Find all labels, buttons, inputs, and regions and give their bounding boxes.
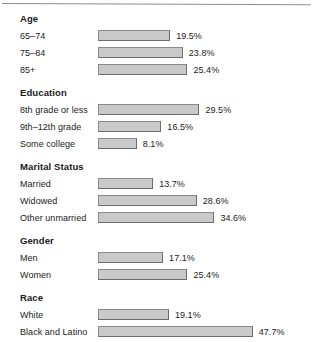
bar bbox=[98, 104, 199, 115]
bar-value-label: 47.7% bbox=[259, 326, 285, 339]
bar bbox=[98, 64, 187, 75]
bar-value-label: 29.5% bbox=[205, 104, 231, 117]
bar-category-label: 8th grade or less bbox=[20, 104, 88, 117]
bar bbox=[98, 309, 169, 320]
bar-row: 9th–12th grade16.5% bbox=[0, 119, 313, 136]
bar-track bbox=[98, 121, 161, 132]
bar-group-title: Gender bbox=[0, 235, 313, 247]
bar-row: Married13.7% bbox=[0, 176, 313, 193]
bar-category-label: Widowed bbox=[20, 195, 57, 208]
bar-group-title: Education bbox=[0, 87, 313, 99]
bar-category-label: Other unmarried bbox=[20, 212, 86, 225]
bar bbox=[98, 326, 253, 337]
bar-group: Marital StatusMarried13.7%Widowed28.6%Ot… bbox=[0, 161, 313, 227]
bar-track bbox=[98, 309, 169, 320]
bar-row: Other unmarried34.6% bbox=[0, 210, 313, 227]
bar-group: Age65–7419.5%75–8423.8%85+25.4% bbox=[0, 13, 313, 79]
bar-row: Men17.1% bbox=[0, 250, 313, 267]
bar bbox=[98, 195, 197, 206]
bar-category-label: 65–74 bbox=[20, 30, 45, 43]
bar bbox=[98, 212, 214, 223]
bar-track bbox=[98, 30, 170, 41]
bar-row: Women25.4% bbox=[0, 267, 313, 284]
bar-category-label: Black and Latino bbox=[20, 326, 87, 339]
bar-row: White19.1% bbox=[0, 307, 313, 324]
bar-track bbox=[98, 195, 197, 206]
bar-track bbox=[98, 212, 214, 223]
bar-group-title: Race bbox=[0, 292, 313, 304]
bar-group: GenderMen17.1%Women25.4% bbox=[0, 235, 313, 284]
bar bbox=[98, 30, 170, 41]
bar-row: Some college8.1% bbox=[0, 136, 313, 153]
bar-value-label: 19.5% bbox=[176, 30, 202, 43]
bar-row: 85+25.4% bbox=[0, 62, 313, 79]
bar-row: 65–7419.5% bbox=[0, 28, 313, 45]
bar-row: 8th grade or less29.5% bbox=[0, 102, 313, 119]
bar-row: 75–8423.8% bbox=[0, 45, 313, 62]
bar-row: Black and Latino47.7% bbox=[0, 324, 313, 341]
bar-track bbox=[98, 178, 153, 189]
bar-track bbox=[98, 104, 199, 115]
bar-row: Widowed28.6% bbox=[0, 193, 313, 210]
bar-category-label: Some college bbox=[20, 138, 75, 151]
bar-track bbox=[98, 269, 187, 280]
bar-category-label: 75–84 bbox=[20, 47, 45, 60]
bar bbox=[98, 121, 161, 132]
bar bbox=[98, 178, 153, 189]
bar bbox=[98, 138, 137, 149]
bar-track bbox=[98, 47, 183, 58]
bar-value-label: 17.1% bbox=[169, 252, 195, 265]
bar-value-label: 28.6% bbox=[203, 195, 229, 208]
bar-group: RaceWhite19.1%Black and Latino47.7% bbox=[0, 292, 313, 341]
bar-value-label: 34.6% bbox=[220, 212, 246, 225]
bar-category-label: Men bbox=[20, 252, 38, 265]
bar-group-title: Marital Status bbox=[0, 161, 313, 173]
bar-value-label: 19.1% bbox=[175, 309, 201, 322]
bar-category-label: 9th–12th grade bbox=[20, 121, 81, 134]
bar-category-label: Married bbox=[20, 178, 51, 191]
bar-value-label: 8.1% bbox=[143, 138, 164, 151]
bar-category-label: 85+ bbox=[20, 64, 35, 77]
bar bbox=[98, 47, 183, 58]
bar-value-label: 23.8% bbox=[189, 47, 215, 60]
bar-group: Education8th grade or less29.5%9th–12th … bbox=[0, 87, 313, 153]
bar-track bbox=[98, 252, 163, 263]
bar bbox=[98, 269, 187, 280]
bar-value-label: 25.4% bbox=[193, 269, 219, 282]
chart-plot-area: Age65–7419.5%75–8423.8%85+25.4%Education… bbox=[0, 13, 313, 341]
bar-value-label: 16.5% bbox=[167, 121, 193, 134]
bar-value-label: 25.4% bbox=[193, 64, 219, 77]
bar-group-title: Age bbox=[0, 13, 313, 25]
top-divider-rule bbox=[2, 3, 311, 5]
bar-value-label: 13.7% bbox=[159, 178, 185, 191]
bar-category-label: White bbox=[20, 309, 43, 322]
bar-track bbox=[98, 326, 253, 337]
bar-category-label: Women bbox=[20, 269, 51, 282]
bar-track bbox=[98, 64, 187, 75]
bar-track bbox=[98, 138, 137, 149]
bar-chart-figure: Age65–7419.5%75–8423.8%85+25.4%Education… bbox=[0, 0, 313, 342]
bar bbox=[98, 252, 163, 263]
